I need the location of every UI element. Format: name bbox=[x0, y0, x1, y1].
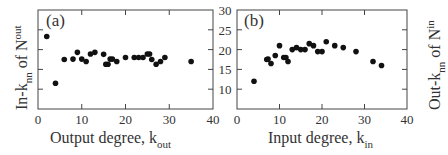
data-point bbox=[272, 53, 278, 59]
data-point bbox=[188, 59, 194, 65]
x-tick-label: 30 bbox=[163, 112, 176, 127]
x-tick-label: 10 bbox=[75, 112, 88, 127]
x-tick-label: 20 bbox=[119, 112, 132, 127]
x-tick-label: 10 bbox=[273, 112, 286, 127]
chart-figure: 010203040 (a) Output degree, kout In-knn… bbox=[0, 0, 448, 155]
data-point bbox=[92, 50, 98, 56]
data-point bbox=[70, 56, 76, 62]
data-point bbox=[114, 59, 120, 65]
x-tick-label: 30 bbox=[358, 112, 371, 127]
data-point bbox=[353, 49, 359, 55]
data-point bbox=[379, 63, 385, 69]
x-tick-label: 20 bbox=[316, 112, 329, 127]
panel-b-xlabel: Input degree, kin bbox=[268, 129, 373, 150]
data-point bbox=[285, 59, 291, 65]
data-point bbox=[332, 43, 338, 49]
x-tick-label: 0 bbox=[234, 112, 241, 127]
data-point bbox=[302, 47, 308, 53]
data-point bbox=[105, 61, 111, 67]
data-point bbox=[162, 55, 168, 61]
x-tick-label: 40 bbox=[207, 112, 220, 127]
data-point bbox=[83, 59, 89, 65]
panel-b-label: (b) bbox=[244, 11, 264, 30]
panel-b-ylabel: Out-knn of Nin bbox=[424, 20, 447, 110]
data-point bbox=[44, 34, 50, 40]
y-tick-label: 25 bbox=[219, 23, 232, 38]
shared-y-axis-labels: 1015202530 bbox=[219, 3, 232, 97]
data-point bbox=[370, 59, 376, 65]
x-tick-label: 40 bbox=[401, 112, 414, 127]
data-point bbox=[323, 39, 329, 45]
panel-a-points bbox=[44, 34, 194, 86]
y-tick-label: 15 bbox=[219, 62, 232, 77]
data-point bbox=[53, 80, 59, 86]
data-point bbox=[61, 57, 67, 63]
data-point bbox=[311, 43, 317, 49]
panel-a: 010203040 (a) Output degree, kout In-knn… bbox=[11, 10, 220, 150]
data-point bbox=[75, 50, 81, 56]
panel-a-xlabel: Output degree, kout bbox=[50, 129, 171, 150]
data-point bbox=[268, 61, 274, 67]
data-point bbox=[319, 49, 325, 55]
panel-b-points bbox=[251, 39, 384, 84]
panel-a-label: (a) bbox=[46, 11, 65, 30]
data-point bbox=[149, 57, 155, 63]
data-point bbox=[147, 51, 153, 57]
data-point bbox=[158, 59, 164, 65]
x-tick-label: 0 bbox=[35, 112, 42, 127]
data-point bbox=[277, 43, 283, 49]
y-tick-label: 20 bbox=[219, 43, 232, 58]
data-point bbox=[140, 55, 146, 61]
y-tick-label: 30 bbox=[219, 3, 232, 18]
panel-b: 010203040 (b) Input degree, kin Out-knn … bbox=[234, 10, 447, 150]
data-point bbox=[123, 55, 129, 61]
data-point bbox=[101, 52, 107, 58]
data-point bbox=[340, 45, 346, 51]
data-point bbox=[251, 78, 257, 84]
panel-a-ylabel: In-knn of Nout bbox=[11, 25, 34, 110]
y-tick-label: 10 bbox=[219, 82, 232, 97]
